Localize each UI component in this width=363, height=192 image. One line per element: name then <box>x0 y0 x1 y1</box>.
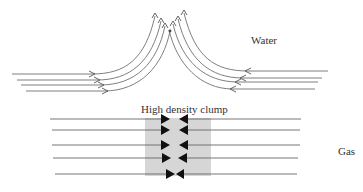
water-flow-lines <box>12 13 328 91</box>
clump-label: High density clump <box>141 103 228 115</box>
water-label: Water <box>251 34 277 46</box>
diagram-canvas <box>0 0 363 192</box>
high-density-clump <box>145 118 211 176</box>
gas-label: Gas <box>338 145 355 157</box>
water-convergence-point <box>169 30 172 33</box>
